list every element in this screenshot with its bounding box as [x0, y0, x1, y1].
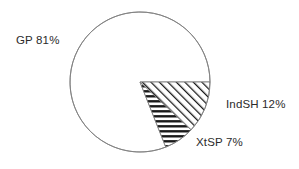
pie-chart-svg: GP 81% IndSH 12% XtSP 7%	[0, 0, 299, 169]
slice-label-gp: GP 81%	[16, 34, 60, 46]
slice-label-indsh: IndSH 12%	[226, 98, 286, 110]
pie-chart-figure: GP 81% IndSH 12% XtSP 7%	[0, 0, 299, 169]
slice-label-xtsp: XtSP 7%	[196, 136, 243, 148]
